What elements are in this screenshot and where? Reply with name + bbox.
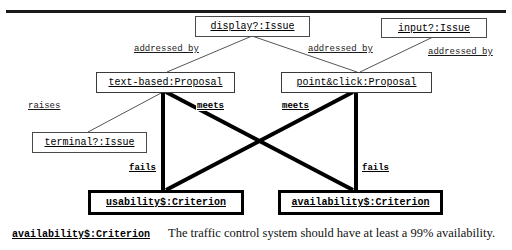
node-text-based-proposal[interactable]: text-based:Proposal [96,72,235,93]
edge-raises-textbased-to-terminal [88,92,163,132]
node-terminal-issue[interactable]: terminal?:Issue [32,132,147,153]
node-display-issue[interactable]: display?:Issue [195,16,310,37]
figure-container: display?:Issue input?:Issue text-based:P… [0,0,512,250]
node-point-click-proposal[interactable]: point&click:Proposal [281,72,432,93]
node-input-issue-label: input?:Issue [398,23,470,34]
edge-addressed-by-input-to-pointclick [360,37,433,72]
node-usability-criterion-label: usability$:Criterion [106,197,226,208]
edge-label-fails-right: fails [361,163,390,173]
edge-addressed-by-display-to-textbased [167,36,252,72]
edge-label-meets-right: meets [281,101,310,111]
edge-label-addressed-by-2: addressed by [307,44,374,54]
node-usability-criterion[interactable]: usability$:Criterion [88,190,244,215]
edge-label-fails-left: fails [128,163,157,173]
node-display-issue-label: display?:Issue [210,21,294,32]
node-point-click-proposal-label: point&click:Proposal [296,77,416,88]
edge-label-addressed-by-1: addressed by [133,44,200,54]
edge-label-addressed-by-3: addressed by [427,47,494,57]
node-text-based-proposal-label: text-based:Proposal [108,77,222,88]
node-availability-criterion-label: availability$:Criterion [291,197,429,208]
node-availability-criterion[interactable]: availability$:Criterion [278,190,443,215]
edge-label-meets-left: meets [196,101,225,111]
caption-term: availability$:Criterion [12,229,150,240]
caption-description: The traffic control system should have a… [168,226,495,241]
caption-row: availability$:Criterion The traffic cont… [12,226,504,241]
edge-label-raises: raises [27,101,61,111]
node-terminal-issue-label: terminal?:Issue [44,137,134,148]
edge-addressed-by-display-to-pointclick [252,36,357,72]
node-input-issue[interactable]: input?:Issue [381,18,487,38]
